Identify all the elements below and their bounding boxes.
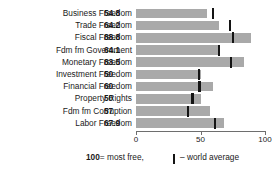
bar-row-value: 88.8 <box>104 32 128 43</box>
bar <box>136 9 207 19</box>
bar-row-value: 64.1 <box>104 45 128 56</box>
legend-world-average: – world average <box>180 152 239 162</box>
bar <box>136 106 210 116</box>
bar <box>136 82 213 92</box>
bar-row: Fiscal Freedom88.8 <box>0 32 280 43</box>
legend-world-average-text: world average <box>187 152 239 162</box>
chart-container: Economic Freedoms Business Freedom54.8Tr… <box>0 0 280 173</box>
world-average-marker-icon <box>198 81 200 92</box>
bar-track <box>136 8 265 19</box>
bar-row: Fdm fm Corruption57 <box>0 106 280 117</box>
bar-row-value: 57 <box>104 106 128 117</box>
bar <box>136 118 224 128</box>
world-average-marker-icon <box>230 57 232 68</box>
legend-most-free-text: = most free, <box>100 152 144 162</box>
bar-row: Monetary Freedom83.5 <box>0 57 280 68</box>
bar-row: Trade Freedom64.2 <box>0 20 280 31</box>
bar-row: Financial Freedom60 <box>0 81 280 92</box>
bar-row-value: 50 <box>104 93 128 104</box>
x-axis-tick-label: 50 <box>196 135 205 144</box>
bar-row: Investment Freedom50 <box>0 69 280 80</box>
bar-row: Property Rights50 <box>0 93 280 104</box>
bar-track <box>136 57 265 68</box>
bar-row: Business Freedom54.8 <box>0 8 280 19</box>
bar <box>136 45 219 55</box>
legend-dash: – <box>180 152 185 162</box>
world-average-marker-icon <box>191 93 193 104</box>
bar-track <box>136 118 265 129</box>
x-axis-tick <box>136 131 137 135</box>
bar-track <box>136 32 265 43</box>
bar-row-value: 54.8 <box>104 8 128 19</box>
bar-row-value: 83.5 <box>104 57 128 68</box>
world-average-marker-icon <box>198 69 200 80</box>
bar-row-value: 67.9 <box>104 118 128 129</box>
world-average-marker-icon <box>214 118 216 129</box>
bar-track <box>136 106 265 117</box>
x-axis-tick <box>265 131 266 135</box>
bar <box>136 57 244 67</box>
world-average-marker-icon <box>187 106 189 117</box>
bar-row-value: 64.2 <box>104 20 128 31</box>
legend-most-free-value: 100 <box>86 152 100 162</box>
bar-track <box>136 69 265 80</box>
x-axis-tick <box>201 131 202 135</box>
bar <box>136 70 201 80</box>
bar-track <box>136 81 265 92</box>
bar-row: Fdm fm Government64.1 <box>0 45 280 56</box>
world-average-marker-icon <box>232 32 234 43</box>
chart-legend: 100= most free, – world average <box>0 152 280 168</box>
bar-row-value: 50 <box>104 69 128 80</box>
x-axis-tick-label: 100 <box>258 135 271 144</box>
bar <box>136 21 219 31</box>
legend-most-free: 100= most free, <box>86 152 144 162</box>
legend-world-average-marker-icon <box>173 154 175 164</box>
bar-track <box>136 93 265 104</box>
world-average-marker-icon <box>218 45 220 56</box>
bar-row: Labor Freedom67.9 <box>0 118 280 129</box>
x-axis-tick-label: 0 <box>134 135 138 144</box>
bar-track <box>136 45 265 56</box>
bar-track <box>136 20 265 31</box>
world-average-marker-icon <box>212 8 214 19</box>
bar-row-value: 60 <box>104 81 128 92</box>
bar-rows: Business Freedom54.8Trade Freedom64.2Fis… <box>0 8 280 130</box>
world-average-marker-icon <box>229 20 231 31</box>
